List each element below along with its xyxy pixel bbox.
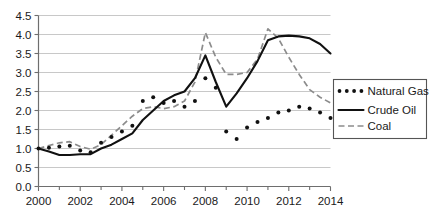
- series-marker-natural-gas: [193, 99, 197, 103]
- legend-label-crude-oil: Crude Oil: [368, 104, 417, 116]
- series-marker-natural-gas: [68, 144, 72, 148]
- x-tick-label: 2006: [151, 195, 177, 207]
- legend-marker-natural-gas: [360, 89, 364, 93]
- series-marker-natural-gas: [120, 129, 124, 133]
- series-marker-natural-gas: [203, 76, 207, 80]
- series-marker-natural-gas: [110, 135, 114, 139]
- y-tick-label: 1.0: [16, 143, 32, 155]
- y-tick-label: 0.0: [16, 181, 32, 193]
- x-tick-label: 2004: [109, 195, 135, 207]
- legend-label-coal: Coal: [368, 120, 392, 132]
- series-marker-natural-gas: [266, 116, 270, 120]
- y-tick-label: 3.0: [16, 67, 32, 79]
- x-tick-label: 2000: [26, 195, 52, 207]
- series-marker-natural-gas: [235, 137, 239, 141]
- series-marker-natural-gas: [47, 146, 51, 150]
- series-marker-natural-gas: [141, 99, 145, 103]
- legend-marker-natural-gas: [338, 89, 342, 93]
- series-marker-natural-gas: [297, 105, 301, 109]
- legend-marker-natural-gas: [352, 89, 356, 93]
- price-index-line-chart: 0.00.51.01.52.02.53.03.54.04.52000200220…: [0, 0, 430, 218]
- y-tick-label: 0.5: [16, 162, 32, 174]
- series-marker-natural-gas: [256, 120, 260, 124]
- series-marker-natural-gas: [245, 126, 249, 130]
- x-tick-label: 2008: [193, 195, 219, 207]
- series-marker-natural-gas: [287, 109, 291, 113]
- series-marker-natural-gas: [183, 105, 187, 109]
- x-tick-label: 2002: [67, 195, 93, 207]
- series-marker-natural-gas: [329, 116, 333, 120]
- series-marker-natural-gas: [130, 124, 134, 128]
- y-tick-label: 1.5: [16, 124, 32, 136]
- legend-marker-natural-gas: [345, 89, 349, 93]
- series-marker-natural-gas: [276, 110, 280, 114]
- legend-label-natural-gas: Natural Gas: [368, 85, 430, 97]
- series-line-coal: [39, 29, 331, 149]
- x-tick-label: 2012: [276, 195, 302, 207]
- chart-canvas: 0.00.51.01.52.02.53.03.54.04.52000200220…: [0, 0, 430, 218]
- series-marker-natural-gas: [57, 145, 61, 149]
- x-tick-label: 2014: [318, 195, 344, 207]
- y-tick-label: 4.5: [16, 10, 32, 22]
- series-marker-natural-gas: [151, 95, 155, 99]
- series-marker-natural-gas: [37, 147, 41, 151]
- series-marker-natural-gas: [99, 141, 103, 145]
- y-tick-label: 4.0: [16, 29, 32, 41]
- series-marker-natural-gas: [308, 107, 312, 111]
- y-tick-label: 2.5: [16, 86, 32, 98]
- series-marker-natural-gas: [214, 86, 218, 90]
- series-marker-natural-gas: [78, 148, 82, 152]
- series-marker-natural-gas: [89, 150, 93, 154]
- series-marker-natural-gas: [162, 101, 166, 105]
- series-marker-natural-gas: [318, 110, 322, 114]
- series-marker-natural-gas: [172, 99, 176, 103]
- x-tick-label: 2010: [234, 195, 260, 207]
- series-marker-natural-gas: [224, 129, 228, 133]
- y-tick-label: 3.5: [16, 48, 32, 60]
- y-tick-label: 2.0: [16, 105, 32, 117]
